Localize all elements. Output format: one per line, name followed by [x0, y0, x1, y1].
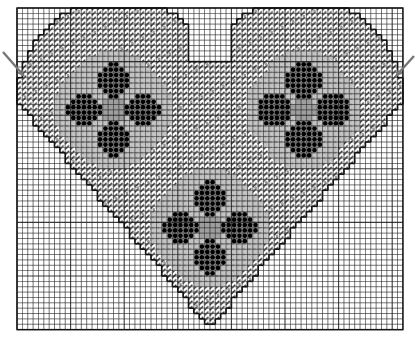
right-center-arrow-icon	[396, 56, 414, 76]
needlepoint-chart	[0, 0, 417, 343]
left-center-arrow-icon	[3, 52, 24, 76]
